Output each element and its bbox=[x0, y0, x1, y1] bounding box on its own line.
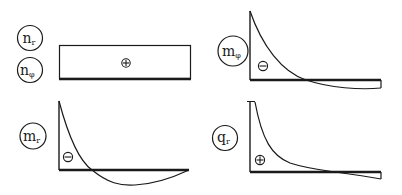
panel-m-r bbox=[20, 101, 189, 185]
label-mr: mr bbox=[23, 128, 40, 145]
moment-curve bbox=[59, 101, 189, 185]
label-mphi: mφ bbox=[222, 43, 241, 60]
panel-n bbox=[18, 26, 192, 83]
shear-curve bbox=[255, 102, 381, 179]
moment-curve bbox=[250, 11, 381, 89]
label-qr: qr bbox=[217, 129, 230, 146]
label-nr: nr bbox=[23, 30, 36, 47]
label-nphi: nφ bbox=[20, 62, 35, 79]
stress-resultant-diagrams: nr nφ mφ mr qr bbox=[0, 0, 402, 195]
panel-q-r bbox=[213, 101, 382, 179]
sign-symbols bbox=[63, 59, 267, 165]
constant-distribution-rect bbox=[60, 46, 191, 79]
panel-m-phi bbox=[218, 11, 381, 89]
